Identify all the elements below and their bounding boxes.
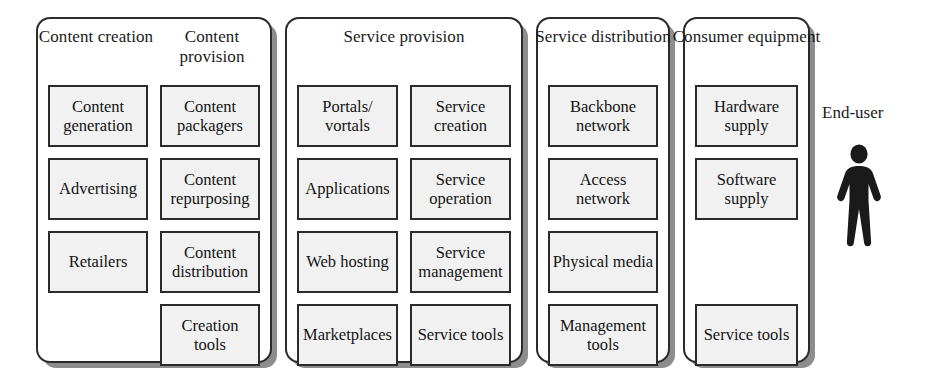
box-label: Content repurposing	[164, 170, 256, 208]
panel-content-grid: Content generation Content packagers Adv…	[48, 85, 260, 351]
box-content-repurposing[interactable]: Content repurposing	[160, 158, 260, 220]
box-physical-media[interactable]: Physical media	[548, 231, 658, 293]
panel-header-service-distribution: Service distribution	[535, 27, 671, 47]
panel-header-content-creation: Content creation	[38, 27, 154, 67]
box-label: Content packagers	[164, 97, 256, 135]
panel-header-service-provision: Service provision	[343, 27, 464, 47]
box-software-supply[interactable]: Software supply	[695, 158, 798, 220]
box-access-network[interactable]: Access network	[548, 158, 658, 220]
box-label: Management tools	[552, 316, 654, 354]
box-service-operation[interactable]: Service operation	[410, 158, 511, 220]
panel-consumer-equipment-grid: Hardware supply Software supply Service …	[695, 85, 798, 351]
box-retailers[interactable]: Retailers	[48, 231, 148, 293]
panel-header-row: Service distribution	[538, 27, 668, 47]
box-service-tools-consumer[interactable]: Service tools	[695, 304, 798, 366]
box-placeholder-empty	[48, 304, 148, 366]
diagram-canvas: Content creation Content provision Conte…	[0, 0, 929, 386]
box-service-creation[interactable]: Service creation	[410, 85, 511, 147]
end-user-label: End-user	[822, 103, 883, 123]
panel-header-row: Content creation Content provision	[38, 27, 270, 67]
box-backbone-network[interactable]: Backbone network	[548, 85, 658, 147]
box-label: Access network	[552, 170, 654, 208]
box-label: Marketplaces	[303, 325, 392, 344]
box-label: Service tools	[704, 325, 790, 344]
panel-consumer-equipment: Consumer equipment Hardware supply Softw…	[683, 17, 810, 363]
box-label: Advertising	[59, 179, 137, 198]
panel-header-row: Service provision	[287, 27, 521, 47]
box-management-tools[interactable]: Management tools	[548, 304, 658, 366]
panel-content-creation-provision: Content creation Content provision Conte…	[36, 17, 272, 363]
box-portals-vortals[interactable]: Portals/ vortals	[297, 85, 398, 147]
box-applications[interactable]: Applications	[297, 158, 398, 220]
panel-header-row: Consumer equipment	[685, 27, 808, 47]
box-label: Physical media	[553, 252, 653, 271]
box-label: Content distribution	[164, 243, 256, 281]
box-label: Hardware supply	[699, 97, 794, 135]
box-label: Content generation	[52, 97, 144, 135]
box-label: Service creation	[414, 97, 507, 135]
box-service-management[interactable]: Service management	[410, 231, 511, 293]
end-user-group: End-user	[812, 103, 924, 263]
box-label: Retailers	[69, 252, 128, 271]
panel-service-provision: Service provision Portals/ vortals Servi…	[285, 17, 523, 363]
box-label: Service operation	[414, 170, 507, 208]
box-label: Applications	[305, 179, 389, 198]
box-placeholder-empty	[695, 231, 798, 293]
box-marketplaces[interactable]: Marketplaces	[297, 304, 398, 366]
box-hardware-supply[interactable]: Hardware supply	[695, 85, 798, 147]
box-content-generation[interactable]: Content generation	[48, 85, 148, 147]
box-content-packagers[interactable]: Content packagers	[160, 85, 260, 147]
box-creation-tools[interactable]: Creation tools	[160, 304, 260, 366]
box-content-distribution[interactable]: Content distribution	[160, 231, 260, 293]
box-service-tools-provision[interactable]: Service tools	[410, 304, 511, 366]
panel-service-distribution: Service distribution Backbone network Ac…	[536, 17, 670, 363]
box-advertising[interactable]: Advertising	[48, 158, 148, 220]
panel-service-distribution-grid: Backbone network Access network Physical…	[548, 85, 658, 351]
box-label: Web hosting	[306, 252, 389, 271]
box-label: Software supply	[699, 170, 794, 208]
panel-header-consumer-equipment: Consumer equipment	[673, 27, 821, 47]
box-label: Portals/ vortals	[301, 97, 394, 135]
person-icon	[834, 143, 884, 247]
box-label: Backbone network	[552, 97, 654, 135]
box-web-hosting[interactable]: Web hosting	[297, 231, 398, 293]
panel-header-content-provision: Content provision	[154, 27, 270, 67]
panel-service-provision-grid: Portals/ vortals Service creation Applic…	[297, 85, 511, 351]
box-label: Service management	[414, 243, 507, 281]
box-label: Creation tools	[164, 316, 256, 354]
box-label: Service tools	[418, 325, 504, 344]
